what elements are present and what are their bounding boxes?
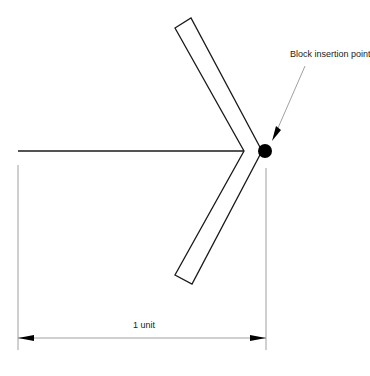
annotation-label: Block insertion point <box>290 49 370 59</box>
arrow-block-diagram: Block insertion point 1 unit <box>0 0 370 376</box>
dimension-arrow-right-icon <box>250 335 266 341</box>
dimension-label: 1 unit <box>133 320 156 330</box>
dimension-arrow-left-icon <box>18 335 34 341</box>
leader-line <box>278 66 305 128</box>
insertion-point-dot <box>258 144 272 158</box>
leader-arrowhead-icon <box>272 126 281 141</box>
